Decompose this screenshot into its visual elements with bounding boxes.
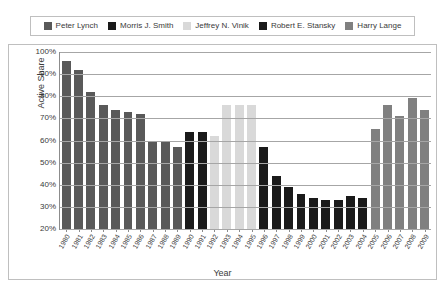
x-tick-slot: 2001 xyxy=(319,232,331,266)
y-axis-tick: 100% xyxy=(36,48,56,56)
x-axis-tick: 2004 xyxy=(354,233,368,250)
x-tick-slot: 1996 xyxy=(257,232,269,266)
y-axis-tick-labels: 100%90%80%70%60%50%40%30%20% xyxy=(28,48,56,230)
y-axis-tick: 60% xyxy=(40,137,56,145)
bar-1986[interactable] xyxy=(136,114,145,229)
legend-item-label: Robert E. Stansky xyxy=(271,22,335,30)
gridline xyxy=(60,185,431,186)
y-axis-tick: 20% xyxy=(40,225,56,233)
legend-item-lynch: Peter Lynch xyxy=(44,22,98,30)
legend-item-label: Peter Lynch xyxy=(56,22,98,30)
bar-1995[interactable] xyxy=(247,105,256,229)
x-axis-tick: 1988 xyxy=(156,233,170,250)
x-tick-slot: 1986 xyxy=(133,232,145,266)
x-axis-tick: 2006 xyxy=(379,233,393,250)
x-axis-tick: 1994 xyxy=(230,233,244,250)
bar-2004[interactable] xyxy=(358,198,367,229)
bar-2007[interactable] xyxy=(395,116,404,229)
bar-1998[interactable] xyxy=(284,187,293,229)
gridline xyxy=(60,141,431,142)
x-tick-slot: 2008 xyxy=(405,232,417,266)
x-tick-slot: 1994 xyxy=(232,232,244,266)
bar-2009[interactable] xyxy=(420,110,429,229)
bar-1985[interactable] xyxy=(124,112,133,229)
bar-1994[interactable] xyxy=(235,105,244,229)
legend-item-label: Morris J. Smith xyxy=(120,22,173,30)
x-tick-slot: 1993 xyxy=(220,232,232,266)
bar-1999[interactable] xyxy=(297,194,306,229)
x-tick-slot: 2007 xyxy=(393,232,405,266)
x-tick-slot: 1980 xyxy=(59,232,71,266)
gridline xyxy=(60,74,431,75)
x-tick-slot: 1989 xyxy=(170,232,182,266)
gridline xyxy=(60,118,431,119)
legend-swatch-icon xyxy=(345,22,353,30)
gridline xyxy=(60,163,431,164)
x-axis-tick: 1993 xyxy=(218,233,232,250)
legend-item-stansky: Robert E. Stansky xyxy=(259,22,335,30)
x-axis-title: Year xyxy=(0,268,445,278)
legend-swatch-icon xyxy=(44,22,52,30)
bar-1984[interactable] xyxy=(111,110,120,229)
x-axis-tick: 1987 xyxy=(144,233,158,250)
gridline xyxy=(60,96,431,97)
x-tick-slot: 1983 xyxy=(96,232,108,266)
y-axis-tick: 40% xyxy=(40,181,56,189)
x-axis-tick: 1996 xyxy=(255,233,269,250)
y-axis-tick: 50% xyxy=(40,159,56,167)
bar-1990[interactable] xyxy=(185,132,194,229)
x-tick-slot: 1997 xyxy=(269,232,281,266)
x-axis-tick: 2001 xyxy=(317,233,331,250)
gridline xyxy=(60,207,431,208)
x-axis-tick: 1989 xyxy=(169,233,183,250)
bar-1996[interactable] xyxy=(259,147,268,229)
x-tick-slot: 1998 xyxy=(281,232,293,266)
bar-1980[interactable] xyxy=(62,61,71,229)
x-tick-slot: 1982 xyxy=(84,232,96,266)
bar-1982[interactable] xyxy=(86,92,95,229)
x-axis-tick: 1982 xyxy=(82,233,96,250)
x-tick-slot: 1984 xyxy=(108,232,120,266)
x-tick-slot: 1987 xyxy=(146,232,158,266)
bar-1993[interactable] xyxy=(222,105,231,229)
legend-swatch-icon xyxy=(183,22,191,30)
bar-2005[interactable] xyxy=(371,129,380,229)
bar-2003[interactable] xyxy=(346,196,355,229)
x-tick-slot: 2002 xyxy=(331,232,343,266)
x-tick-slot: 2000 xyxy=(306,232,318,266)
x-axis-tick: 1992 xyxy=(206,233,220,250)
plot-area xyxy=(59,52,431,230)
legend-item-label: Jeffrey N. Vinik xyxy=(195,22,249,30)
legend-swatch-icon xyxy=(259,22,267,30)
x-axis-tick: 1999 xyxy=(292,233,306,250)
y-axis-tick: 30% xyxy=(40,203,56,211)
x-tick-slot: 1999 xyxy=(294,232,306,266)
bar-2000[interactable] xyxy=(309,198,318,229)
x-tick-slot: 2004 xyxy=(356,232,368,266)
x-tick-slot: 1990 xyxy=(183,232,195,266)
bar-1989[interactable] xyxy=(173,147,182,229)
x-axis-tick: 2002 xyxy=(329,233,343,250)
bar-1983[interactable] xyxy=(99,105,108,229)
y-axis-tick: 70% xyxy=(40,114,56,122)
bar-2006[interactable] xyxy=(383,105,392,229)
x-axis-tick: 2005 xyxy=(366,233,380,250)
y-axis-tick: 80% xyxy=(40,92,56,100)
x-tick-slot: 1985 xyxy=(121,232,133,266)
bar-1981[interactable] xyxy=(74,70,83,229)
x-tick-slot: 1988 xyxy=(158,232,170,266)
bar-2002[interactable] xyxy=(334,200,343,229)
x-tick-slot: 2009 xyxy=(417,232,429,266)
legend-item-label: Harry Lange xyxy=(357,22,401,30)
gridline xyxy=(60,229,431,230)
bar-1991[interactable] xyxy=(198,132,207,229)
x-axis-tick: 1998 xyxy=(280,233,294,250)
x-axis-tick-labels: 1980198119821983198419851986198719881989… xyxy=(59,232,430,266)
y-axis-tick: 90% xyxy=(40,70,56,78)
x-tick-slot: 2006 xyxy=(380,232,392,266)
bar-1992[interactable] xyxy=(210,136,219,229)
bar-2001[interactable] xyxy=(321,200,330,229)
x-axis-tick: 1991 xyxy=(193,233,207,250)
x-tick-slot: 2005 xyxy=(368,232,380,266)
x-tick-slot: 1992 xyxy=(207,232,219,266)
